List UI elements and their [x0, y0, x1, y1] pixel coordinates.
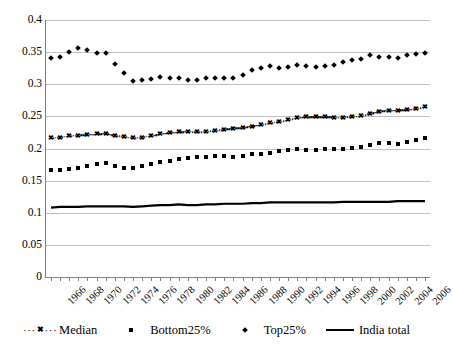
- x-axis-tick: [87, 277, 88, 281]
- data-point-median: ✖: [94, 131, 100, 137]
- x-axis-tick: [142, 277, 143, 281]
- data-point-bottom25-: [277, 149, 281, 153]
- series-line-india-total: [51, 201, 425, 207]
- legend-label: Top25%: [264, 323, 306, 337]
- data-point-bottom25-: [241, 154, 245, 158]
- x-axis-tick-label: 1998: [357, 284, 380, 307]
- legend-item-india-total[interactable]: India total: [326, 323, 410, 337]
- data-point-bottom25-: [423, 136, 427, 140]
- data-point-median: ✖: [349, 114, 355, 120]
- x-axis-tick-label: 1988: [266, 284, 289, 307]
- data-point-bottom25-: [58, 168, 62, 172]
- x-axis-tick-label: 2002: [394, 284, 417, 307]
- x-axis-tick-label: 1976: [156, 284, 179, 307]
- data-point-bottom25-: [368, 143, 372, 147]
- x-axis-tick: [416, 277, 417, 281]
- data-point-median: ✖: [75, 133, 81, 139]
- x-axis-tick: [160, 277, 161, 281]
- x-axis-tick: [270, 277, 271, 281]
- data-point-bottom25-: [104, 161, 108, 165]
- data-point-bottom25-: [95, 162, 99, 166]
- legend-item-top25-[interactable]: Top25%: [231, 323, 306, 337]
- x-axis-tick-label: 1984: [229, 284, 252, 307]
- y-axis-tick-label: 0.1: [2, 207, 42, 219]
- data-point-bottom25-: [350, 146, 354, 150]
- data-point-bottom25-: [204, 155, 208, 159]
- data-point-median: ✖: [212, 128, 218, 134]
- x-axis-tick: [361, 277, 362, 281]
- data-point-median: ✖: [176, 129, 182, 135]
- data-point-median: ✖: [413, 106, 419, 112]
- data-point-bottom25-: [76, 166, 80, 170]
- y-axis-tick-label: 0: [2, 271, 42, 283]
- x-axis-tick-label: 1978: [175, 284, 198, 307]
- x-axis-tick: [407, 277, 408, 281]
- x-axis-tick: [334, 277, 335, 281]
- x-axis-tick: [115, 277, 116, 281]
- x-axis-tick-label: 1970: [102, 284, 125, 307]
- x-axis-tick-label: 1972: [120, 284, 143, 307]
- x-axis-tick: [51, 277, 52, 281]
- data-point-bottom25-: [314, 148, 318, 152]
- data-point-median: ✖: [322, 114, 328, 120]
- data-point-median: ✖: [276, 119, 282, 125]
- data-point-median: ✖: [167, 130, 173, 136]
- data-point-median: ✖: [48, 135, 54, 141]
- data-point-median: ✖: [121, 134, 127, 140]
- x-axis-tick: [188, 277, 189, 281]
- x-axis-tick: [352, 277, 353, 281]
- dotted-x-marker-key: ✖: [26, 325, 54, 335]
- x-axis-tick: [343, 277, 344, 281]
- y-axis-tick-label: 0.2: [2, 143, 42, 155]
- x-axis-tick: [325, 277, 326, 281]
- x-axis-tick: [124, 277, 125, 281]
- x-axis-tick-label: 1992: [302, 284, 325, 307]
- solid-line-icon: [326, 329, 354, 332]
- series-layer: ✖✖✖✖✖✖✖✖✖✖✖✖✖✖✖✖✖✖✖✖✖✖✖✖✖✖✖✖✖✖✖✖✖✖✖✖✖✖✖✖…: [46, 20, 430, 277]
- data-point-median: ✖: [331, 115, 337, 121]
- legend-label: Median: [59, 323, 97, 337]
- x-axis-tick: [197, 277, 198, 281]
- x-axis-tick-label: 2004: [412, 284, 435, 307]
- square-marker-icon: [129, 328, 133, 332]
- legend-label: Bottom25%: [150, 323, 210, 337]
- x-axis-tick: [316, 277, 317, 281]
- x-axis-tick: [233, 277, 234, 281]
- diamond-marker-key: [231, 325, 259, 335]
- data-point-bottom25-: [213, 154, 217, 158]
- data-point-bottom25-: [195, 155, 199, 159]
- data-point-median: ✖: [386, 108, 392, 114]
- data-point-bottom25-: [122, 166, 126, 170]
- y-axis-tick-label: 0.3: [2, 78, 42, 90]
- x-axis-tick: [379, 277, 380, 281]
- x-axis-tick: [279, 277, 280, 281]
- data-point-bottom25-: [286, 148, 290, 152]
- legend-item-bottom25-[interactable]: Bottom25%: [117, 323, 210, 337]
- data-point-bottom25-: [222, 154, 226, 158]
- data-point-median: ✖: [112, 133, 118, 139]
- legend-item-median[interactable]: ✖Median: [26, 323, 97, 337]
- data-point-bottom25-: [140, 164, 144, 168]
- data-point-bottom25-: [85, 164, 89, 168]
- data-point-bottom25-: [332, 147, 336, 151]
- data-point-median: ✖: [157, 131, 163, 137]
- data-point-bottom25-: [168, 159, 172, 163]
- x-axis-tick: [97, 277, 98, 281]
- x-axis-tick: [297, 277, 298, 281]
- x-marker-icon: ✖: [37, 323, 44, 337]
- data-point-bottom25-: [259, 152, 263, 156]
- x-axis-tick: [389, 277, 390, 281]
- data-point-bottom25-: [113, 164, 117, 168]
- data-point-median: ✖: [285, 117, 291, 123]
- data-point-median: ✖: [340, 115, 346, 121]
- data-point-bottom25-: [414, 138, 418, 142]
- data-point-bottom25-: [177, 157, 181, 161]
- x-axis-tick-label: 1974: [138, 284, 161, 307]
- data-point-median: ✖: [194, 129, 200, 135]
- x-axis-tick: [133, 277, 134, 281]
- data-point-bottom25-: [387, 141, 391, 145]
- data-point-bottom25-: [405, 140, 409, 144]
- data-point-median: ✖: [294, 115, 300, 121]
- x-axis-tick-label: 1982: [211, 284, 234, 307]
- chart-legend: ✖MedianBottom25%Top25%India total: [0, 320, 436, 340]
